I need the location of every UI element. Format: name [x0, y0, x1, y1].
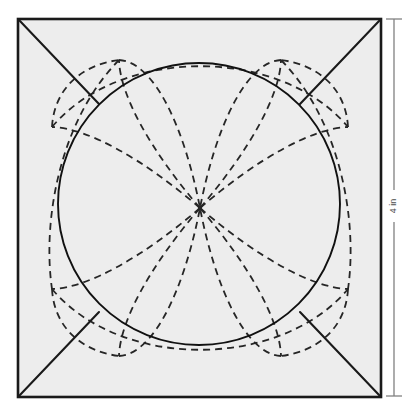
height-dimension: 4 in: [386, 19, 402, 396]
center-convergence-point: [198, 206, 202, 210]
geometry-canvas: 4 in: [0, 0, 410, 412]
dimension-label: 4 in: [388, 199, 398, 214]
geometry-figure: 4 in: [0, 0, 410, 412]
